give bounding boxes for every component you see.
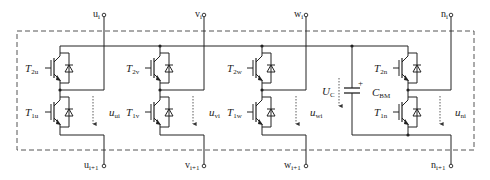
voltage-label-uui: uui	[109, 106, 120, 120]
switch-label-t1n: T1n	[374, 106, 388, 120]
voltage-label-uni: uni	[455, 106, 466, 120]
circuit-diagram: + ui vi wi ni ui+1 vi+1 wi+1 n	[0, 0, 490, 180]
terminal-u-bottom: ui+1	[84, 159, 99, 172]
terminal-n-bottom: ni+1	[431, 159, 446, 172]
switch-label-t1w: T1w	[227, 106, 243, 120]
svg-text:+: +	[358, 78, 363, 88]
leg-u	[45, 16, 104, 165]
capacitor-label-cbm: CBM	[372, 86, 391, 100]
switch-label-t2v: T2v	[126, 62, 140, 76]
voltage-arrows	[93, 78, 440, 124]
switch-label-t2w: T2w	[227, 62, 243, 76]
leg-w	[247, 16, 306, 165]
switch-label-t2u: T2u	[25, 62, 39, 76]
switch-label-t1v: T1v	[126, 106, 140, 120]
leg-v	[145, 16, 204, 165]
voltage-label-uc: UC	[322, 85, 335, 99]
switch-label-t1u: T1u	[25, 106, 39, 120]
terminal-v-bottom: vi+1	[185, 159, 200, 172]
terminal-w-bottom: wi+1	[284, 159, 301, 172]
leg-n	[393, 16, 451, 165]
terminal-w-top: wi	[294, 8, 303, 21]
terminal-n-top: ni	[441, 8, 448, 21]
switch-label-t2n: T2n	[374, 62, 388, 76]
terminal-v-top: vi	[195, 8, 202, 21]
terminal-u-top: ui	[93, 8, 100, 21]
voltage-label-uwi: uwi	[310, 106, 323, 120]
module-capacitor: +	[344, 46, 363, 135]
voltage-label-uvi: uvi	[209, 106, 220, 120]
